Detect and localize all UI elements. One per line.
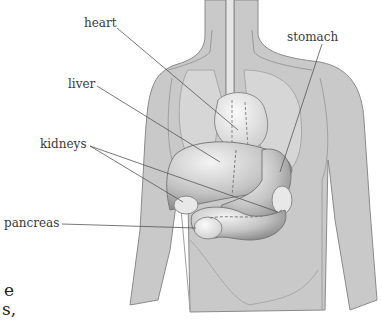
esophagus bbox=[226, 0, 234, 95]
cropped-text-line-2: s, bbox=[2, 301, 16, 318]
label-kidneys: kidneys bbox=[40, 138, 87, 150]
label-pancreas: pancreas bbox=[4, 217, 59, 229]
label-liver: liver bbox=[68, 78, 95, 90]
torso-illustration bbox=[0, 0, 382, 325]
cropped-text-line-1: e bbox=[4, 282, 14, 299]
label-stomach: stomach bbox=[287, 31, 338, 43]
label-heart: heart bbox=[84, 17, 117, 29]
anatomy-figure: heart stomach liver kidneys pancreas e s… bbox=[0, 0, 382, 325]
pancreas-leader-line bbox=[62, 224, 196, 228]
